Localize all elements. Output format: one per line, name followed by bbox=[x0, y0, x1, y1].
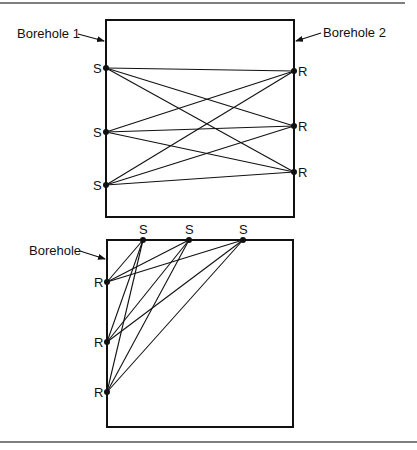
source-label: S bbox=[93, 178, 102, 193]
receiver-label: R bbox=[298, 64, 307, 79]
source-label: S bbox=[93, 125, 102, 140]
receiver-label: R bbox=[298, 119, 307, 134]
receiver-point bbox=[104, 389, 110, 395]
bottom-ray-paths bbox=[107, 240, 243, 392]
receiver-label: R bbox=[94, 385, 103, 400]
top-ray-paths bbox=[106, 68, 294, 185]
top-crosshole-diagram: S S S R R R Borehole 1 Borehole 2 bbox=[17, 20, 386, 217]
receiver-label: R bbox=[298, 165, 307, 180]
source-point bbox=[140, 237, 146, 243]
receiver-point bbox=[291, 68, 297, 74]
source-point bbox=[103, 129, 109, 135]
borehole-label: Borehole bbox=[29, 243, 81, 258]
top-box bbox=[106, 20, 294, 217]
borehole-2-label: Borehole 2 bbox=[323, 25, 386, 40]
borehole-1-arrow-icon bbox=[78, 34, 104, 41]
receiver-label: R bbox=[94, 275, 103, 290]
source-label: S bbox=[93, 61, 102, 76]
source-point bbox=[186, 237, 192, 243]
receiver-point bbox=[104, 339, 110, 345]
borehole-arrow-icon bbox=[80, 251, 105, 259]
receiver-point bbox=[104, 279, 110, 285]
crosshole-tomography-diagram: S S S R R R Borehole 1 Borehole 2 bbox=[0, 0, 417, 450]
receiver-label: R bbox=[94, 335, 103, 350]
receiver-point bbox=[291, 123, 297, 129]
borehole-2-arrow-icon bbox=[296, 33, 321, 41]
source-point bbox=[240, 237, 246, 243]
source-point bbox=[103, 182, 109, 188]
bottom-vsp-diagram: S S S R R R Borehole bbox=[29, 222, 293, 427]
source-label: S bbox=[239, 222, 248, 237]
source-label: S bbox=[185, 222, 194, 237]
borehole-1-label: Borehole 1 bbox=[17, 26, 80, 41]
source-point bbox=[103, 65, 109, 71]
source-label: S bbox=[139, 222, 148, 237]
receiver-point bbox=[291, 169, 297, 175]
